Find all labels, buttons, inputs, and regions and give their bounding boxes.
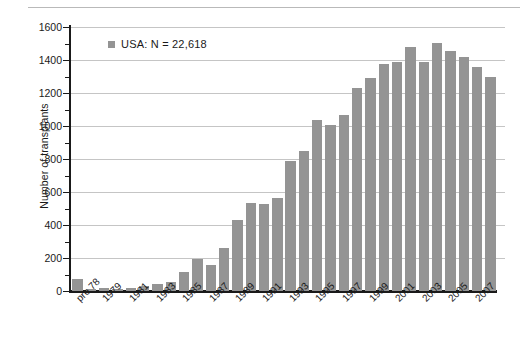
bar xyxy=(459,57,469,291)
y-tick-minor xyxy=(65,242,69,243)
y-tick-label: 1200 xyxy=(22,88,62,98)
y-tick-major xyxy=(63,27,69,28)
bar xyxy=(339,115,349,291)
y-tick-major xyxy=(63,225,69,226)
page-top-rule xyxy=(28,7,520,8)
y-tick-major xyxy=(63,159,69,160)
bar xyxy=(325,125,335,291)
y-tick-label: 1400 xyxy=(22,55,62,65)
bar xyxy=(312,120,322,291)
y-tick-major xyxy=(63,93,69,94)
y-tick-label: 800 xyxy=(22,154,62,164)
y-tick-minor xyxy=(65,209,69,210)
bar xyxy=(272,198,282,291)
bar xyxy=(472,67,482,291)
y-tick-major xyxy=(63,291,69,292)
y-tick-minor xyxy=(65,110,69,111)
y-tick-label: 0 xyxy=(22,286,62,296)
y-tick-major xyxy=(63,60,69,61)
bar xyxy=(246,203,256,291)
bar xyxy=(379,64,389,291)
y-tick-label: 1000 xyxy=(22,121,62,131)
y-tick-label: 400 xyxy=(22,220,62,230)
y-tick-minor xyxy=(65,176,69,177)
legend: USA: N = 22,618 xyxy=(108,38,207,50)
bar xyxy=(392,62,402,291)
y-tick-major xyxy=(63,258,69,259)
bar xyxy=(299,151,309,291)
bar xyxy=(432,43,442,291)
y-tick-minor xyxy=(65,44,69,45)
bar xyxy=(405,47,415,291)
y-axis-tick-labels: 02004006008001000120014001600 xyxy=(14,0,62,337)
y-tick-minor xyxy=(65,77,69,78)
y-tick-minor xyxy=(65,275,69,276)
bar xyxy=(419,62,429,291)
plot-area xyxy=(71,27,497,291)
bar-chart: Number of transplants 020040060080010001… xyxy=(0,0,525,337)
bar xyxy=(445,51,455,291)
y-tick-label: 1600 xyxy=(22,22,62,32)
y-tick-major xyxy=(63,192,69,193)
legend-swatch-usa xyxy=(108,41,115,48)
bar xyxy=(485,77,495,291)
y-tick-minor xyxy=(65,143,69,144)
gridline xyxy=(71,27,505,28)
legend-label-usa: USA: N = 22,618 xyxy=(121,38,207,50)
y-tick-label: 200 xyxy=(22,253,62,263)
bar xyxy=(285,161,295,291)
bar xyxy=(232,220,242,291)
y-tick-label: 600 xyxy=(22,187,62,197)
bar xyxy=(365,78,375,291)
y-tick-major xyxy=(63,126,69,127)
bar xyxy=(259,204,269,291)
bar xyxy=(352,88,362,291)
